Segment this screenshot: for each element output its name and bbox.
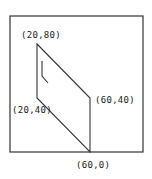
- vertex-label-b: (60,40): [95, 95, 135, 105]
- vertex-label-a: (20,80): [21, 30, 61, 40]
- diagram-canvas: (20,80) (60,40) (60,0) (20,40): [0, 0, 152, 179]
- vertex-label-d: (20,40): [12, 105, 52, 115]
- orientation-marker: [42, 61, 48, 83]
- parallelogram: [37, 44, 90, 152]
- vertex-label-c: (60,0): [76, 160, 110, 170]
